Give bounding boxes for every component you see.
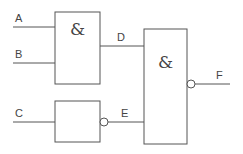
nand-gate — [144, 29, 187, 144]
and-symbol-gate-3: & — [158, 52, 173, 72]
logic-diagram: & & A B C D E F — [0, 0, 243, 154]
not-gate — [55, 101, 100, 142]
label-d: D — [117, 31, 125, 43]
inverter-bubble-gate-3 — [187, 80, 195, 88]
label-e: E — [121, 107, 128, 119]
and-symbol-gate-1: & — [70, 19, 85, 39]
label-f: F — [216, 69, 223, 81]
label-b: B — [15, 48, 22, 60]
label-a: A — [15, 12, 23, 24]
inverter-bubble-gate-2 — [100, 118, 108, 126]
label-c: C — [15, 107, 23, 119]
